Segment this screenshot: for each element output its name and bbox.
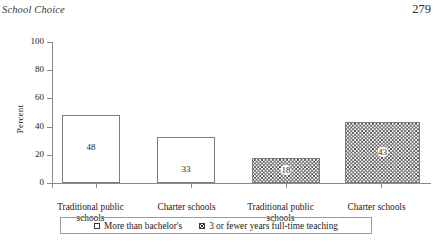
y-tick-40: 40 xyxy=(47,127,52,128)
bar-traditional-public-more-than-bachelors: 48 xyxy=(62,115,120,183)
chart-legend: More than bachelor's 3 or fewer years fu… xyxy=(60,217,372,234)
y-axis-title: Percent xyxy=(15,89,25,149)
x-tick-boundary-0 xyxy=(52,183,53,188)
page-running-head: School Choice 279 xyxy=(2,4,431,18)
bar-traditional-public-three-or-fewer-years: 18 xyxy=(252,158,320,183)
bar-charter-three-or-fewer-years: 43 xyxy=(345,122,420,183)
x-tick-boundary-4 xyxy=(381,183,382,188)
legend-swatch-open-icon xyxy=(94,223,100,229)
bar-value-label: 18 xyxy=(281,165,292,175)
y-tick-label-60: 60 xyxy=(35,92,44,102)
legend-label: More than bachelor's xyxy=(104,221,182,231)
y-tick-60: 60 xyxy=(47,98,52,99)
x-tick-boundary-2 xyxy=(191,183,192,188)
header-title: School Choice xyxy=(2,4,65,15)
bar-value-label: 43 xyxy=(377,147,388,157)
y-tick-label-40: 40 xyxy=(35,121,44,131)
y-tick-label-80: 80 xyxy=(35,64,44,74)
bar-value-label: 33 xyxy=(182,164,191,174)
y-tick-20: 20 xyxy=(47,155,52,156)
x-label-line: Traditional public xyxy=(38,202,143,213)
x-axis-line xyxy=(52,183,431,184)
x-label-line: Charter schools xyxy=(324,202,429,213)
legend-item-three-or-fewer-years: 3 or fewer years full-time teaching xyxy=(199,221,338,231)
bar-charter-more-than-bachelors: 33 xyxy=(157,137,215,184)
y-tick-label-100: 100 xyxy=(31,36,45,46)
page-number: 279 xyxy=(412,2,431,17)
x-label-category-3: Charter schools xyxy=(324,202,429,213)
legend-label: 3 or fewer years full-time teaching xyxy=(209,221,338,231)
x-label-line: Charter schools xyxy=(134,202,239,213)
legend-swatch-hatched-icon xyxy=(199,223,205,229)
bar-chart-figure: Percent 0 20 40 60 80 100 48 xyxy=(0,26,435,246)
plot-area: 0 20 40 60 80 100 48 33 18 xyxy=(52,42,431,183)
x-label-category-1: Charter schools xyxy=(134,202,239,213)
x-tick-boundary-1 xyxy=(96,183,97,188)
y-axis-line xyxy=(52,42,53,184)
legend-item-more-than-bachelors: More than bachelor's xyxy=(94,221,182,231)
bar-value-label: 48 xyxy=(87,142,96,152)
x-tick-boundary-3 xyxy=(286,183,287,188)
y-tick-80: 80 xyxy=(47,70,52,71)
y-tick-label-0: 0 xyxy=(40,177,45,187)
x-label-line: Traditional public xyxy=(228,202,333,213)
y-tick-100: 100 xyxy=(47,42,52,43)
y-tick-label-20: 20 xyxy=(35,149,44,159)
